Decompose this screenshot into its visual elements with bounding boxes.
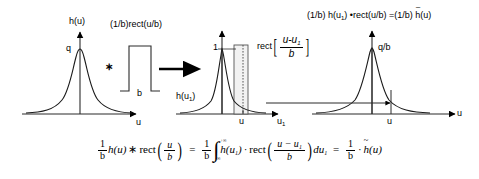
panel-middle-curve-label-main: h(u [176,91,189,101]
rect-pulse-graph [120,46,160,91]
differential: du1 [313,143,327,155]
panel-left-peak-label: q [66,44,71,53]
middle-bell-curve [180,49,266,113]
mid-coefficient: 1 b [202,139,211,161]
panel-right-title: (1/b) h(u1) •rect(u/b) =(1/b) h(u) [307,11,431,21]
rect-pulse-outline [120,46,160,91]
mid-coef-denominator: b [202,150,211,162]
mid-arg-numerator: u − u1 [274,138,305,151]
panel-middle-axis-label-sub: 1 [282,121,285,127]
rect-pulse-width-label: b [137,89,142,98]
mid-dot-operator: · [244,143,248,155]
lhs-arg-denominator: b [164,150,175,162]
lhs-coef-denominator: b [98,150,107,162]
panel-left-axis-label: u [136,118,141,127]
rhs-coef-denominator: b [346,150,355,162]
rect-arg-numerator: u-u1 [280,34,304,47]
panel-left-title: h(u) [69,17,85,26]
mid-arg-numerator-sub: 1 [299,144,302,150]
rect-fn-name: rect [257,41,272,51]
mid-rect-argument: u − u1 b [274,138,305,163]
integral-upper-limit: +∞ [220,138,226,143]
panel-right-peak-label: q/b [378,43,391,52]
panel-right-axis-label: u [457,109,462,118]
integral-symbol-group: +∞ ∫ -∞ [213,141,219,159]
bracket-open-icon: [ [274,36,278,56]
panel-right-title-p2: ) •rect(u/b) =(1/b) [344,10,415,20]
lhs-coef-numerator: 1 [98,139,107,150]
equation-row: 1 b h(u)∗rect( u b ) = 1 b +∞ ∫ -∞ h(u1)… [0,137,479,163]
equals-sign-2: = [333,143,339,155]
panel-right-tick-label: u [387,117,392,126]
panel-middle-curve-label: h(u1) [176,92,195,102]
convolution-operator-symbol: ∗ [105,62,113,72]
mid-rect-name: rect [249,143,265,155]
rect-arg-fraction: u-u1 b [280,34,304,59]
equals-sign-1: = [189,143,195,155]
mid-paren-close-icon: ) [307,137,311,163]
panel-right-title-p1: (1/b) h(u [307,10,341,20]
lhs-rect-argument: u b [164,139,175,162]
differential-sub: 1 [324,150,327,156]
rhs-coefficient: 1 b [346,139,355,161]
mid-coef-numerator: 1 [202,139,211,150]
panel-right-title-h-tilde: h [415,11,420,20]
main-equation: 1 b h(u)∗rect( u b ) = 1 b +∞ ∫ -∞ h(u1)… [97,137,382,163]
panel-middle-curve-label-end: ) [192,91,195,101]
panel-middle-peak-label: 1 [213,43,218,52]
lhs-conv-operator: ∗ [128,143,137,155]
rhs-h-tilde: h [364,143,370,155]
rect-pulse-title: (1/b)rect(u/b) [110,20,162,29]
figure-canvas: h(u) q u ∗ (1/b)rect(u/b) b 1 h(u1) u u1… [0,0,479,179]
rect-arg-denominator: b [280,47,304,59]
lhs-arg-numerator: u [164,139,175,150]
lhs-paren-close-icon: ) [178,137,182,163]
lhs-function: h(u) [108,143,126,155]
panel-middle-rect-expression: rect[ u-u1 b ] [257,34,311,59]
panel-middle-tick-label: u [239,117,244,126]
panel-left-graph [22,32,136,114]
lhs-coefficient: 1 b [98,139,107,161]
rhs-dot-operator: · [358,143,362,155]
mid-integrand: h(u1) [220,143,241,155]
rhs-fn-tail: (u) [369,143,382,155]
lhs-rect-name: rect [139,143,155,155]
rect-arg-numerator-sub: 1 [297,40,300,46]
lhs-paren-open-icon: ( [157,137,161,163]
integral-lower-limit: -∞ [215,156,220,161]
mid-paren-open-icon: ( [267,137,271,163]
panel-right-title-p4: (u) [420,10,431,20]
rhs-coef-numerator: 1 [346,139,355,150]
bracket-close-icon: ] [306,36,310,56]
panel-middle-axis-label: u1 [277,117,285,127]
mid-arg-denominator: b [274,150,305,162]
left-bell-curve [26,49,132,113]
